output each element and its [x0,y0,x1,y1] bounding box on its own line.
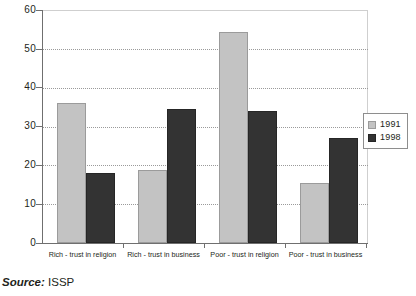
bar-1998-poor-trust-in-business [329,138,358,243]
x-tick-mark [204,243,205,248]
y-tick-label: 10 [2,199,36,209]
x-tick-mark [123,243,124,248]
bar-1998-poor-trust-in-religion [248,111,277,243]
legend-label: 1998 [380,133,401,142]
x-axis-label-group-4: Poor - trust in business [285,250,366,259]
bar-1998-rich-trust-in-business [167,109,196,243]
y-tick-label: 0 [2,238,36,248]
bar-1991-rich-trust-in-religion [57,103,86,243]
gridline [43,88,368,89]
x-axis-label-group-1: Rich - trust in religion [42,250,123,259]
chart-legend: 1991 1998 [363,113,408,149]
y-tick-label: 40 [2,82,36,92]
y-tick-label: 60 [2,5,36,15]
source-value: ISSP [45,276,74,288]
gridline [43,127,368,128]
bar-1991-rich-trust-in-business [138,170,167,243]
source-note: Source: ISSP [2,275,74,289]
y-tick-label: 30 [2,121,36,131]
x-tick-mark [285,243,286,248]
x-tick-mark [366,243,367,248]
bar-1998-rich-trust-in-religion [86,173,115,243]
y-tick-label: 20 [2,160,36,170]
chart-figure: 60 50 40 30 20 10 0 [0,0,416,296]
legend-item-1991: 1991 [368,118,404,131]
bar-1991-poor-trust-in-business [300,183,329,243]
x-axis-label-group-3: Poor - trust in religion [204,250,285,259]
legend-swatch-icon [368,134,376,142]
y-tick-label: 50 [2,44,36,54]
legend-label: 1991 [380,120,401,129]
gridline [43,49,368,50]
legend-item-1998: 1998 [368,131,404,144]
x-axis-label-group-2: Rich - trust in business [123,250,204,259]
bar-1991-poor-trust-in-religion [219,32,248,243]
legend-swatch-icon [368,121,376,129]
plot-area [42,10,368,244]
gridline [43,165,368,166]
source-label: Source: [2,276,45,288]
